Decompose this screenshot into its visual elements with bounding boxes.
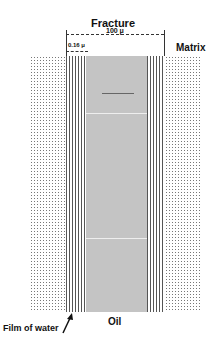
- matrix-left: [30, 56, 66, 312]
- film-width-label: 0.16 μ: [68, 42, 85, 48]
- matrix-label: Matrix: [176, 42, 205, 53]
- water-film-left: [66, 56, 86, 312]
- arrow-icon: [60, 312, 76, 334]
- fracture-left-bound: [66, 30, 67, 56]
- film-width-dimension: [66, 51, 88, 52]
- oil-divider: [86, 113, 147, 114]
- fracture-width-label: 100 μ: [104, 27, 126, 34]
- oil-divider: [86, 238, 147, 239]
- fracture-right-bound: [164, 30, 165, 56]
- water-film-label: Film of water: [3, 323, 59, 333]
- oil-label: Oil: [108, 316, 121, 327]
- matrix-right: [165, 56, 201, 312]
- water-film-right: [147, 56, 165, 312]
- oil-region: [86, 56, 147, 312]
- oil-streak: [102, 93, 134, 94]
- fracture-diagram: Fracture 100 μ 0.16 μ Matrix Oil Film of…: [0, 0, 214, 348]
- fracture-width-dimension: [66, 34, 164, 35]
